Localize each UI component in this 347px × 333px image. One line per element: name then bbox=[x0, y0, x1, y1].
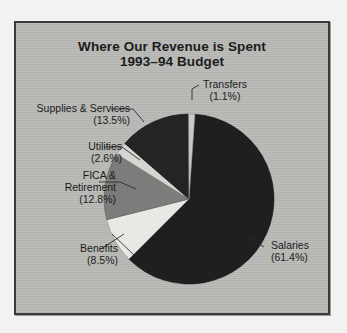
pie-label-salaries-pct: (61.4%) bbox=[271, 251, 309, 263]
pie-label-fica-retirement-name: FICA & bbox=[83, 169, 116, 181]
pie-label-benefits-name: Benefits bbox=[80, 242, 118, 254]
pie-chart-svg bbox=[16, 23, 328, 313]
pie-label-transfers: Transfers (1.1%) bbox=[203, 78, 247, 102]
pie-label-benefits: Benefits (8.5%) bbox=[80, 242, 118, 266]
chart-screenshot: Where Our Revenue is Spent 1993–94 Budge… bbox=[0, 0, 347, 333]
pie-label-fica-retirement-pct: (12.8%) bbox=[65, 193, 116, 205]
pie-label-transfers-pct: (1.1%) bbox=[203, 90, 247, 102]
pie-label-salaries-name: Salaries bbox=[271, 239, 309, 251]
chart-panel: Where Our Revenue is Spent 1993–94 Budge… bbox=[14, 21, 330, 315]
pie-label-supplies-services-pct: (13.5%) bbox=[37, 114, 130, 126]
pie-label-fica-retirement: FICA & Retirement (12.8%) bbox=[65, 169, 116, 205]
pie-label-supplies-services-name: Supplies & Services bbox=[37, 102, 130, 114]
pie-label-utilities-name: Utilities bbox=[88, 140, 122, 152]
pie-label-transfers-name: Transfers bbox=[203, 78, 247, 90]
pie-label-fica-retirement-name2: Retirement bbox=[65, 181, 116, 193]
pie-label-utilities-pct: (2.6%) bbox=[88, 152, 122, 164]
pie-plot-area: Supplies & Services (13.5%) Utilities (2… bbox=[16, 23, 328, 313]
leader-line-transfers bbox=[192, 85, 199, 100]
pie-label-benefits-pct: (8.5%) bbox=[80, 254, 118, 266]
pie-label-supplies-services: Supplies & Services (13.5%) bbox=[37, 102, 130, 126]
pie-label-utilities: Utilities (2.6%) bbox=[88, 140, 122, 164]
pie-label-salaries: Salaries (61.4%) bbox=[271, 239, 309, 263]
